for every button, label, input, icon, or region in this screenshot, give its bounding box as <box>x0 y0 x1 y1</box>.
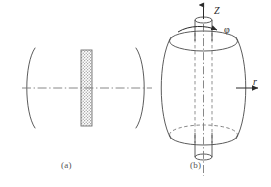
r-axis-label: r <box>253 76 257 87</box>
figure-canvas: Z φ r (a) (b) <box>0 0 271 187</box>
z-axis-label: Z <box>214 5 220 16</box>
figure-vector-layer <box>0 0 271 187</box>
panel-b-caption: (b) <box>190 160 201 170</box>
panel-a <box>22 48 152 128</box>
panel-a-caption: (a) <box>61 160 72 170</box>
phi-axis-label: φ <box>224 24 230 35</box>
barrel-left-profile <box>161 37 171 139</box>
panel-b <box>161 5 258 176</box>
